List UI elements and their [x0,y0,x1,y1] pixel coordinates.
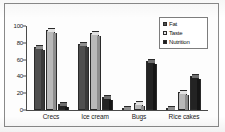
bar-group [78,26,116,110]
bar-fat [122,108,131,110]
bar-fat [166,108,175,110]
bar-taste [178,92,187,110]
bar-group [122,26,160,110]
x-tick-label-3: Rice cakes [169,113,200,120]
bar-fat [34,47,43,110]
y-tick-label: 0 [20,107,26,113]
x-tick-label-2: Bugs [132,113,146,120]
y-tick-label: 60 [17,57,26,63]
y-tick-label: 40 [17,73,26,79]
bar-chart: 0 20 40 60 80 [0,0,225,132]
bar-nutrition [190,76,199,110]
x-axis-line [26,110,208,111]
chart-screenshot: 0 20 40 60 80 [0,0,225,132]
bar-taste [46,30,55,110]
legend-item-fat: Fat [163,20,205,28]
legend-label: Nutrition [169,39,190,45]
x-tick-label-0: Crecs [43,113,59,120]
bar-group [34,26,72,110]
legend-swatch-icon [163,40,167,44]
bar-taste [134,103,143,110]
bar-fat [78,44,87,110]
bar-nutrition [58,104,67,110]
bar-taste [90,33,99,110]
x-tick-label-1: Ice cream [81,113,109,120]
legend-label: Taste [169,30,182,36]
legend-swatch-icon [163,22,167,26]
legend-swatch-icon [163,31,167,35]
y-tick-label: 20 [17,90,26,96]
bar-nutrition [102,97,111,110]
legend-item-taste: Taste [163,29,205,37]
y-tick-label: 100 [14,23,26,29]
legend-label: Fat [169,21,177,27]
chart-legend: Fat Taste Nutrition [159,17,208,49]
y-tick-label: 80 [17,40,26,46]
bar-nutrition [146,61,155,110]
legend-item-nutrition: Nutrition [163,38,205,46]
